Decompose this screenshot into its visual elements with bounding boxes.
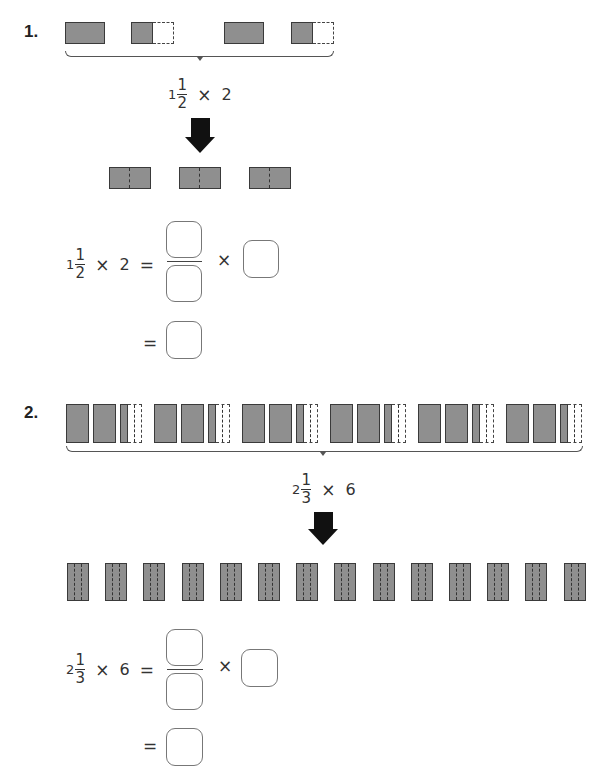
missing-thirds-outline	[216, 404, 230, 443]
numerator-answer-box[interactable]	[166, 629, 203, 666]
times-sign: ×	[218, 656, 232, 676]
whole-block-thirds	[487, 563, 509, 601]
whole-block-thirds	[182, 563, 204, 601]
whole-block	[357, 404, 380, 443]
whole-block-halves	[109, 167, 151, 189]
whole-block-halves	[249, 167, 291, 189]
brace-tip	[320, 452, 326, 456]
whole-block	[242, 404, 265, 443]
fraction-bar	[167, 261, 202, 262]
whole-block-halves	[179, 167, 221, 189]
whole-block	[418, 404, 441, 443]
whole-block	[154, 404, 177, 443]
whole-block	[93, 404, 116, 443]
multiplier: 2	[222, 85, 232, 104]
whole-block	[445, 404, 468, 443]
times-sign: ×	[197, 85, 211, 105]
whole-block	[533, 404, 556, 443]
equals-sign: =	[143, 736, 157, 756]
whole-block-thirds	[296, 563, 318, 601]
equals-sign: =	[143, 333, 157, 353]
missing-thirds-outline	[392, 404, 406, 443]
whole-block	[66, 404, 89, 443]
problem-number: 1.	[24, 22, 38, 42]
factor-answer-box[interactable]	[243, 240, 279, 278]
whole-block-thirds	[334, 563, 356, 601]
whole-block-thirds	[525, 563, 547, 601]
missing-thirds-outline	[480, 404, 494, 443]
numerator-answer-box[interactable]	[166, 221, 202, 258]
whole-block-thirds	[105, 563, 127, 601]
fraction-bar	[167, 669, 203, 670]
missing-half-outline	[313, 22, 334, 44]
half-block	[131, 22, 153, 44]
third-block	[384, 404, 392, 443]
missing-thirds-outline	[568, 404, 582, 443]
result-answer-box[interactable]	[166, 728, 203, 766]
denominator-answer-box[interactable]	[166, 673, 203, 710]
whole-block-thirds	[411, 563, 433, 601]
brace-tip	[197, 57, 203, 61]
times-sign: ×	[217, 250, 231, 270]
whole-block-thirds	[373, 563, 395, 601]
third-block	[472, 404, 480, 443]
third-block	[296, 404, 304, 443]
denominator-answer-box[interactable]	[166, 265, 202, 302]
whole-block-thirds	[449, 563, 471, 601]
third-block	[560, 404, 568, 443]
whole-block-thirds	[220, 563, 242, 601]
whole-block	[330, 404, 353, 443]
whole-block-thirds	[564, 563, 586, 601]
whole-block-thirds	[258, 563, 280, 601]
missing-half-outline	[153, 22, 174, 44]
third-block	[208, 404, 216, 443]
factor-answer-box[interactable]	[241, 649, 278, 687]
third-block	[120, 404, 128, 443]
missing-thirds-outline	[128, 404, 142, 443]
result-answer-box[interactable]	[166, 321, 202, 359]
problem-1-equation: 1 12 × 2 =	[66, 248, 164, 281]
whole-block	[181, 404, 204, 443]
whole-block	[269, 404, 292, 443]
problem-2-expression: 2 13 × 6	[292, 473, 356, 506]
whole-block	[506, 404, 529, 443]
whole-block	[65, 22, 105, 44]
problem-number: 2.	[24, 403, 38, 423]
half-block	[291, 22, 313, 44]
missing-thirds-outline	[304, 404, 318, 443]
whole-block	[224, 22, 264, 44]
mixed-number: 1 12	[168, 78, 187, 111]
problem-1-expression: 1 12 × 2	[168, 78, 232, 111]
problem-2-equation: 2 13 × 6 =	[66, 653, 164, 686]
whole-block-thirds	[143, 563, 165, 601]
whole-block-thirds	[67, 563, 89, 601]
